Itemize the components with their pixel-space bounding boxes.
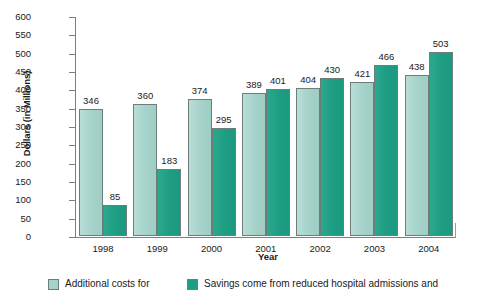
y-axis-tick-label: 350 [0, 104, 31, 114]
y-axis-tick [69, 72, 75, 73]
bar-value-label: 374 [180, 86, 220, 96]
y-axis-tick [69, 182, 75, 183]
legend-label-light: Additional costs for [65, 278, 150, 290]
y-axis-tick-label: 150 [0, 177, 31, 187]
bar-group: 34685 [79, 16, 127, 236]
bar-group: 360183 [133, 16, 181, 236]
y-axis-tick-label: 50 [0, 214, 31, 224]
y-axis-tick-label: 400 [0, 85, 31, 95]
y-axis-tick [69, 127, 75, 128]
bar-value-label: 466 [366, 52, 406, 62]
y-axis-tick [69, 145, 75, 146]
y-axis-tick [69, 17, 75, 18]
bar [429, 52, 453, 236]
bar [320, 78, 344, 236]
bar [133, 104, 157, 236]
y-axis-tick [69, 109, 75, 110]
bar-value-label: 85 [95, 192, 135, 202]
y-axis-tick [69, 164, 75, 165]
bar-group: 389401 [242, 16, 290, 236]
y-axis-tick [69, 219, 75, 220]
bar-value-label: 183 [149, 156, 189, 166]
bar-value-label: 295 [204, 115, 244, 125]
y-axis-tick-label: 500 [0, 49, 31, 59]
bar-group: 438503 [405, 16, 453, 236]
legend-item-additional-costs: Additional costs for [48, 278, 150, 290]
bar-group: 421466 [350, 16, 398, 236]
bar [374, 65, 398, 236]
x-axis-title: Year [0, 251, 490, 262]
y-axis-tick-label: 100 [0, 195, 31, 205]
y-axis-tick-label: 550 [0, 30, 31, 40]
y-axis-tick-label: 250 [0, 140, 31, 150]
bar-value-label: 360 [125, 91, 165, 101]
plot-area: 050100150200250300350400450500550600 346… [75, 17, 455, 237]
bar [103, 205, 127, 236]
y-axis-tick [69, 90, 75, 91]
bar-group: 404430 [296, 16, 344, 236]
bar [405, 75, 429, 236]
bar [212, 128, 236, 236]
bar [350, 82, 374, 236]
y-axis-tick [69, 35, 75, 36]
y-axis-tick-label: 0 [0, 232, 31, 242]
bar [266, 89, 290, 236]
legend-item-savings: Savings come from reduced hospital admis… [187, 278, 438, 290]
bar-group: 374295 [188, 16, 236, 236]
y-axis-tick [69, 237, 75, 238]
bar-value-label: 503 [421, 39, 461, 49]
bar [157, 169, 181, 236]
y-axis-tick-label: 450 [0, 67, 31, 77]
y-axis-tick-label: 300 [0, 122, 31, 132]
plot-right-edge [455, 223, 456, 238]
x-axis-line [75, 237, 456, 238]
y-axis-line [75, 17, 76, 238]
bar [79, 109, 103, 236]
legend-swatch-icon-light [48, 279, 59, 290]
bar-chart-figure: Dollars (in Millions) 050100150200250300… [0, 0, 490, 295]
y-axis-tick-label: 600 [0, 12, 31, 22]
bar [296, 88, 320, 236]
legend-label-dark: Savings come from reduced hospital admis… [204, 278, 438, 290]
chart-legend: Additional costs for Savings come from r… [0, 278, 490, 295]
bar-value-label: 346 [71, 96, 111, 106]
bar [242, 93, 266, 236]
y-axis-tick [69, 200, 75, 201]
legend-swatch-icon-dark [187, 279, 198, 290]
y-axis-tick-label: 200 [0, 159, 31, 169]
y-axis-tick [69, 54, 75, 55]
